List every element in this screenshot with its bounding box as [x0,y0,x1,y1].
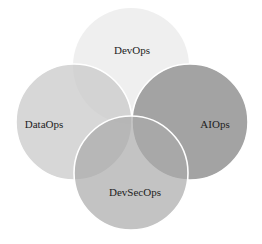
venn-diagram: DevOps DataOps AIOps DevSecOps [0,0,262,244]
aiops-label: AIOps [200,119,229,130]
devsecops-label: DevSecOps [109,187,161,198]
devsecops-circle [74,116,188,230]
dataops-label: DataOps [25,119,64,130]
devops-label: DevOps [114,45,150,56]
